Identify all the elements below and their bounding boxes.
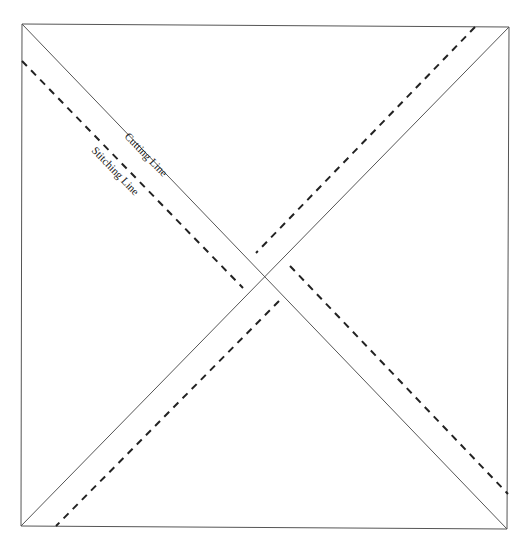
stitching-line-label: Stitching Line xyxy=(90,144,142,197)
hst-diagram: Cutting Line Stitching Line xyxy=(0,0,526,544)
stitching-line-upper-right xyxy=(256,27,475,253)
stitching-line-lower-right xyxy=(290,266,508,494)
cutting-line-label: Cutting Line xyxy=(123,130,171,179)
stitching-line-upper-left xyxy=(22,61,243,288)
stitching-line-lower-left xyxy=(56,301,279,526)
cutting-line-diagonal-2 xyxy=(21,27,509,526)
